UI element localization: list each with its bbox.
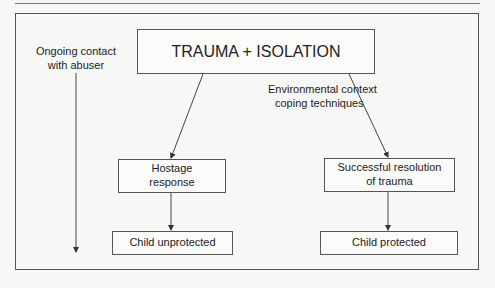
connector-arrows (0, 0, 495, 288)
trauma-to-hostage-arrow (171, 74, 203, 158)
trauma-to-success-arrow (349, 74, 388, 157)
